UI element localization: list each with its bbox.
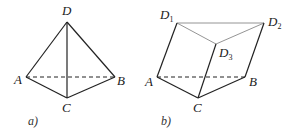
edge-a-c — [157, 77, 198, 98]
geometry-diagram: DABCa) D1D2D3ABCb) — [0, 0, 294, 140]
edge-a-c — [26, 77, 67, 98]
figure-b-prism: D1D2D3ABCb) — [144, 7, 281, 128]
figure-a-tetrahedron: DABCa) — [13, 3, 125, 128]
figure-caption-b: b) — [161, 114, 171, 128]
vertex-label-a: A — [144, 74, 153, 89]
vertex-label-b: B — [249, 74, 257, 89]
vertex-label-d2: D2 — [267, 14, 281, 31]
edge-c-b — [67, 77, 115, 98]
edge-d-a — [26, 22, 67, 77]
vertex-label-d3: D3 — [218, 45, 232, 62]
figure-caption-a: a) — [28, 114, 38, 128]
vertex-label-c: C — [193, 100, 202, 115]
edge-d3-d2 — [216, 23, 264, 44]
vertex-label-a: A — [13, 72, 22, 87]
vertex-label-d1: D1 — [159, 7, 173, 24]
edge-d1-d3 — [177, 23, 216, 44]
vertex-label-d: D — [61, 3, 72, 18]
edge-d-b — [67, 22, 115, 77]
edge-c-b — [198, 77, 245, 98]
edge-d2-b — [245, 23, 264, 77]
vertex-label-c: C — [62, 100, 71, 115]
vertex-label-b: B — [117, 73, 125, 88]
edge-d1-a — [157, 23, 177, 77]
edge-d3-c — [198, 44, 216, 98]
